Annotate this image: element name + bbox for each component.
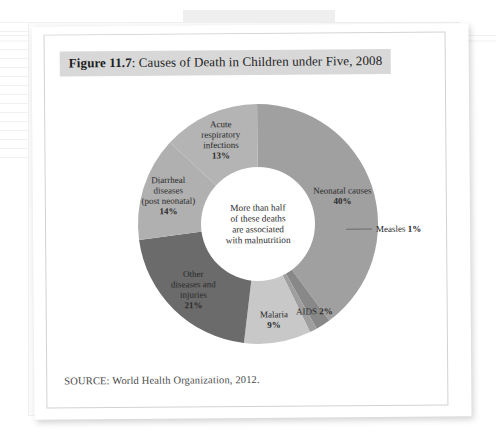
- donut-chart-svg: Neonatal causes40%AIDS 2%Malaria9%Otherd…: [45, 72, 447, 375]
- donut-chart: Neonatal causes40%AIDS 2%Malaria9%Otherd…: [45, 72, 447, 375]
- slice-label-aids: AIDS 2%: [296, 306, 333, 316]
- figure-number: Figure 11.7: [69, 55, 132, 70]
- slice-label-measles: Measles 1%: [376, 224, 421, 234]
- center-annotation-text: More than halfof these deathsare associa…: [225, 202, 290, 245]
- figure-source: SOURCE: World Health Organization, 2012.: [64, 374, 260, 387]
- figure-page: Figure 11.7: Causes of Death in Children…: [31, 23, 471, 419]
- figure-frame: Figure 11.7: Causes of Death in Children…: [44, 31, 449, 408]
- figure-title-text: : Causes of Death in Children under Five…: [132, 53, 383, 70]
- center-annotation: More than halfof these deathsare associa…: [225, 202, 290, 245]
